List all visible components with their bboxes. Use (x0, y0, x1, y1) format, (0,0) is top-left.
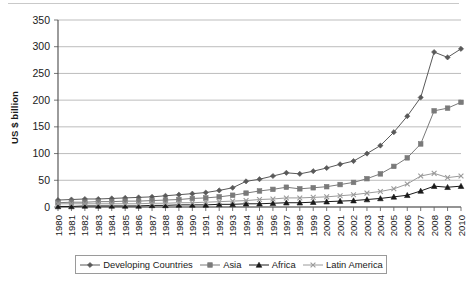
line-chart-plot: 050100150200250300350 198019811982198319… (0, 0, 467, 282)
x-tick-label: 2002 (348, 215, 359, 236)
x-tick-label: 1991 (200, 215, 211, 236)
data-point (190, 191, 195, 196)
y-axis-tick-labels: 050100150200250300350 (32, 14, 50, 213)
square-marker-icon (199, 260, 221, 270)
data-point (244, 191, 249, 196)
x-tick-label: 1984 (106, 214, 117, 236)
data-point (351, 180, 356, 185)
x-axis-ticks (58, 207, 461, 211)
x-tick-label: 1998 (294, 215, 305, 236)
data-series-layer (55, 46, 464, 209)
legend-label: Africa (272, 260, 296, 269)
data-point (257, 177, 262, 182)
x-tick-label: 2008 (429, 215, 440, 236)
data-point (338, 162, 343, 167)
data-point (311, 185, 316, 190)
x-tick-label: 1987 (147, 215, 158, 236)
data-point (203, 190, 208, 195)
x-tick-label: 1993 (227, 215, 238, 236)
y-tick-label: 350 (32, 14, 50, 26)
data-point (459, 100, 464, 105)
data-point (297, 171, 302, 176)
y-tick-label: 300 (32, 40, 50, 52)
y-tick-label: 250 (32, 67, 50, 79)
triangle-marker-icon (248, 260, 270, 270)
legend-item-africa[interactable]: Africa (247, 260, 297, 270)
x-tick-label: 1997 (281, 215, 292, 236)
y-tick-label: 150 (32, 120, 50, 132)
data-point (257, 189, 262, 194)
x-marker-icon (302, 260, 324, 270)
data-point (284, 170, 289, 175)
data-point (405, 182, 410, 187)
x-tick-label: 2001 (335, 215, 346, 236)
data-point (176, 192, 181, 197)
data-point (284, 185, 289, 190)
data-point (445, 55, 450, 60)
x-tick-label: 1994 (241, 214, 252, 236)
legend-label: Developing Countries (103, 260, 193, 269)
data-point (338, 182, 343, 187)
legend-label: Latin America (326, 260, 383, 269)
x-tick-label: 1990 (187, 215, 198, 236)
series-africa (55, 183, 464, 208)
x-tick-label: 2006 (402, 215, 413, 236)
data-point (324, 165, 329, 170)
y-tick-label: 50 (38, 174, 50, 186)
x-tick-label: 2009 (442, 215, 453, 236)
series-asia (56, 100, 464, 205)
chart-container: US $ billion 050100150200250300350 19801… (0, 0, 467, 282)
x-tick-label: 2004 (375, 214, 386, 236)
data-point (365, 176, 370, 181)
data-point (311, 169, 316, 174)
legend-item-asia[interactable]: Asia (198, 260, 242, 270)
legend-label: Asia (223, 260, 241, 269)
data-point (230, 193, 235, 198)
data-point (418, 142, 423, 147)
x-tick-label: 1999 (308, 215, 319, 236)
x-tick-label: 2000 (321, 215, 332, 236)
legend-item-latin-america[interactable]: Latin America (301, 260, 384, 270)
x-tick-label: 1983 (93, 215, 104, 236)
data-point (432, 109, 437, 114)
x-tick-label: 1980 (53, 215, 64, 236)
y-tick-label: 0 (44, 201, 50, 213)
data-point (203, 196, 208, 201)
data-point (270, 173, 275, 178)
data-point (392, 164, 397, 169)
data-point (298, 187, 303, 192)
data-point (378, 172, 383, 177)
data-point (243, 179, 248, 184)
data-point (271, 187, 276, 192)
data-point (217, 188, 222, 193)
data-point (432, 49, 437, 54)
x-tick-label: 1992 (214, 215, 225, 236)
x-tick-label: 2003 (362, 215, 373, 236)
x-axis-tick-labels: 1980198119821983198419851986198719881989… (53, 214, 467, 236)
diamond-marker-icon (79, 260, 101, 270)
chart-legend: Developing CountriesAsiaAfricaLatin Amer… (75, 255, 387, 274)
data-point (351, 158, 356, 163)
data-point (230, 185, 235, 190)
data-point (217, 195, 222, 200)
x-tick-label: 1988 (160, 215, 171, 236)
y-tick-label: 200 (32, 94, 50, 106)
x-tick-label: 1986 (133, 215, 144, 236)
x-tick-label: 1982 (79, 215, 90, 236)
data-point (324, 184, 329, 189)
x-tick-label: 2005 (388, 215, 399, 236)
series-developing-countries (55, 46, 463, 202)
data-point (364, 151, 369, 156)
data-point (405, 156, 410, 161)
x-tick-label: 1996 (268, 215, 279, 236)
x-tick-label: 1995 (254, 215, 265, 236)
y-tick-label: 100 (32, 147, 50, 159)
data-point (445, 106, 450, 111)
x-tick-label: 1981 (66, 215, 77, 236)
data-point (190, 196, 195, 201)
legend-item-developing-countries[interactable]: Developing Countries (78, 260, 194, 270)
x-tick-label: 2007 (415, 215, 426, 236)
x-tick-label: 1985 (120, 215, 131, 236)
x-tick-label: 1989 (174, 215, 185, 236)
x-tick-label: 2010 (456, 215, 467, 236)
